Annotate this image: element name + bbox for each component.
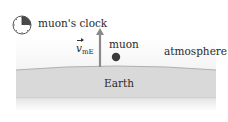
muon-label: muon bbox=[109, 38, 139, 50]
clock-icon bbox=[13, 16, 31, 34]
earth-label: Earth bbox=[104, 77, 134, 89]
atmosphere-label: atmosphere bbox=[164, 45, 227, 57]
diagram-graphics bbox=[0, 0, 228, 122]
velocity-label: vmE bbox=[76, 42, 94, 58]
muon-diagram: muon's clock vmE muon atmosphere Earth bbox=[0, 0, 228, 122]
muon-dot bbox=[112, 53, 120, 61]
velocity-arrow bbox=[96, 28, 104, 67]
velocity-symbol: v bbox=[76, 42, 82, 54]
clock-label: muon's clock bbox=[38, 17, 107, 29]
velocity-subscript: mE bbox=[82, 48, 94, 56]
